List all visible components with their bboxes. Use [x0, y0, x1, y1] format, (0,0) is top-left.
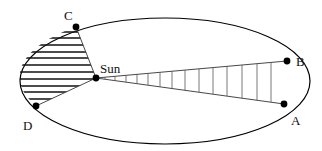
point-c-dot	[73, 24, 80, 31]
sun-label: Sun	[100, 61, 121, 76]
point-c-label: C	[64, 8, 73, 23]
point-d-dot	[33, 103, 40, 110]
point-b-label: B	[296, 54, 305, 69]
point-b-dot	[284, 58, 291, 65]
orbit-ellipse	[20, 18, 310, 144]
sun-dot	[93, 75, 100, 82]
sun-marker: Sun	[93, 61, 121, 81]
point-a-dot	[281, 101, 288, 108]
point-a: A	[281, 101, 301, 128]
point-d: D	[23, 103, 39, 133]
kepler-orbit-diagram: Sun C D B A	[0, 0, 322, 151]
radius-sun-to-a	[96, 78, 284, 104]
sector-ab	[96, 61, 287, 104]
point-d-label: D	[23, 118, 32, 133]
point-b: B	[284, 54, 305, 69]
point-c: C	[64, 8, 79, 30]
radius-sun-to-b	[96, 61, 287, 78]
point-a-label: A	[291, 113, 301, 128]
